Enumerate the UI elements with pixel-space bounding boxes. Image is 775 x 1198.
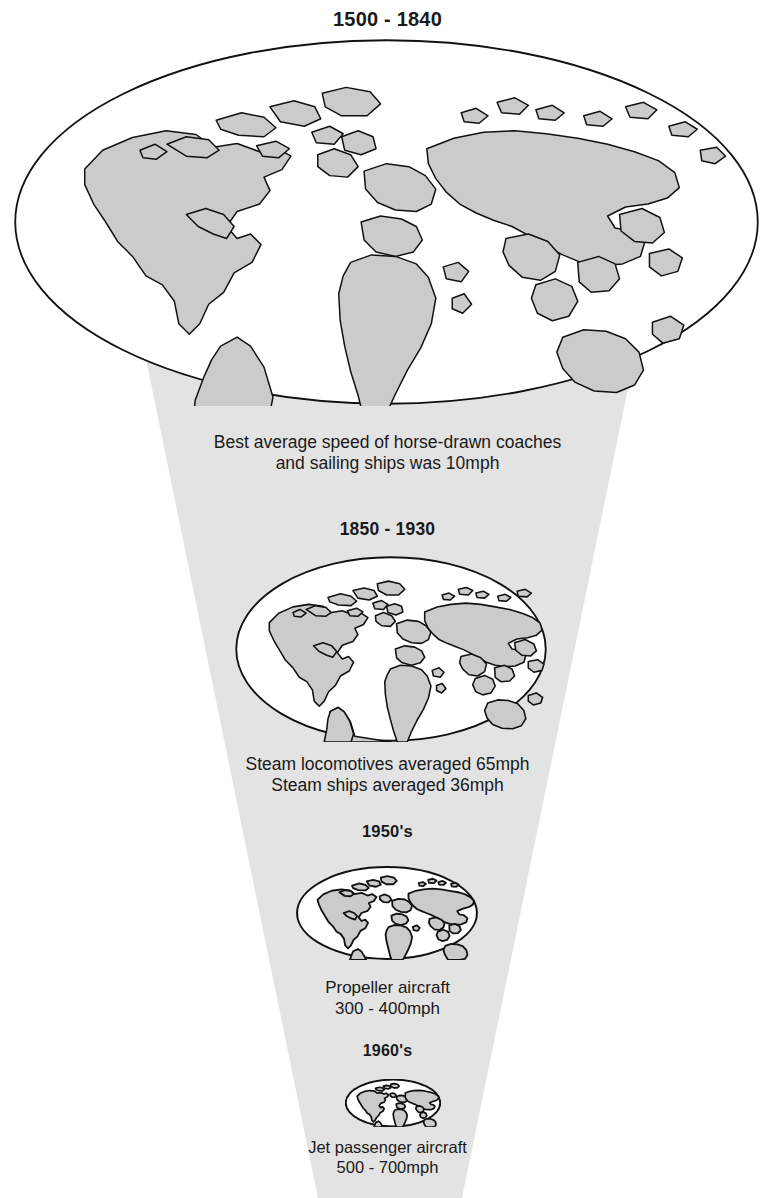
era-caption-3: Propeller aircraft 300 - 400mph [0,978,775,1019]
era-heading-4: 1960's [0,1042,775,1060]
era-heading-1: 1500 - 1840 [0,8,775,31]
era-1-caption-line-1: Best average speed of horse-drawn coache… [0,432,775,453]
era-4-caption-line-2: 500 - 700mph [0,1157,775,1177]
era-caption-1: Best average speed of horse-drawn coache… [0,432,775,475]
era-heading-3: 1950's [0,822,775,841]
era-2-caption-line-1: Steam locomotives averaged 65mph [0,754,775,775]
era-2-caption-line-2: Steam ships averaged 36mph [0,775,775,796]
era-4-caption-line-1: Jet passenger aircraft [0,1137,775,1157]
globe-1950s [296,866,478,960]
globe-1500-1840 [13,38,760,406]
era-1-caption-line-2: and sailing ships was 10mph [0,453,775,474]
era-heading-2: 1850 - 1930 [0,519,775,540]
era-2-heading: 1850 - 1930 [340,519,436,539]
era-1-heading: 1500 - 1840 [333,8,442,30]
era-3-caption-line-2: 300 - 400mph [0,999,775,1020]
globe-1960s [345,1079,441,1127]
era-caption-4: Jet passenger aircraft 500 - 700mph [0,1137,775,1177]
era-3-heading: 1950's [362,822,413,840]
globe-1850-1930 [235,556,547,742]
era-caption-2: Steam locomotives averaged 65mph Steam s… [0,754,775,797]
shrinking-world-diagram: 1500 - 1840 [0,0,775,1198]
era-3-caption-line-1: Propeller aircraft [0,978,775,999]
era-4-heading: 1960's [363,1042,413,1059]
